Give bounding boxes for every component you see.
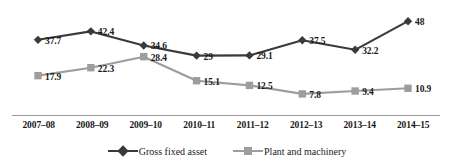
data-point-square[interactable] — [299, 90, 306, 97]
data-value-label: 28.4 — [151, 53, 167, 63]
x-tick-label: 2009–10 — [119, 120, 173, 138]
legend-label: Gross fixed asset — [139, 146, 207, 157]
data-point-square[interactable] — [193, 77, 200, 84]
data-point-diamond[interactable] — [351, 46, 359, 54]
data-point-square[interactable] — [87, 64, 94, 71]
data-value-label: 17.9 — [45, 72, 61, 82]
data-value-label: 7.8 — [309, 90, 321, 100]
data-point-square[interactable] — [34, 72, 41, 79]
data-value-label: 9.4 — [362, 87, 374, 97]
data-point-diamond[interactable] — [140, 41, 148, 49]
data-point-diamond[interactable] — [298, 36, 306, 44]
legend-item-gross-fixed-asset[interactable]: Gross fixed asset — [108, 145, 207, 157]
data-value-label: 29 — [204, 52, 213, 62]
data-point-diamond[interactable] — [192, 51, 200, 59]
data-point-square[interactable] — [404, 85, 411, 92]
x-axis-line — [12, 115, 440, 116]
legend-label: Plant and machinery — [264, 146, 346, 157]
x-tick-label: 2007–08 — [12, 120, 66, 138]
data-value-label: 42.4 — [98, 27, 114, 37]
data-value-label: 15.1 — [204, 77, 220, 87]
data-value-label: 34.6 — [151, 41, 167, 51]
x-axis-tick-labels: 2007–08 2008–09 2009–10 2010–11 2011–12 … — [12, 120, 440, 138]
data-value-label: 37.7 — [45, 36, 61, 46]
data-point-diamond[interactable] — [245, 51, 253, 59]
data-value-label: 48 — [415, 17, 424, 27]
x-tick-label: 2012–13 — [280, 120, 334, 138]
data-value-label: 12.5 — [256, 81, 272, 91]
x-tick-label: 2010–11 — [173, 120, 227, 138]
data-value-label: 32.2 — [362, 46, 378, 56]
data-point-diamond[interactable] — [34, 36, 42, 44]
data-point-diamond[interactable] — [404, 17, 412, 25]
chart-legend: Gross fixed asset Plant and machinery — [0, 145, 454, 157]
data-value-label: 37.5 — [309, 36, 325, 46]
legend-diamond-marker-icon — [108, 145, 138, 157]
x-tick-label: 2008–09 — [66, 120, 120, 138]
line-chart: 2007–08 2008–09 2009–10 2010–11 2011–12 … — [0, 0, 454, 168]
x-tick-label: 2011–12 — [226, 120, 280, 138]
data-value-label: 29.1 — [256, 51, 272, 61]
x-tick-label: 2014–15 — [387, 120, 441, 138]
data-point-square[interactable] — [140, 53, 147, 60]
data-point-square[interactable] — [246, 82, 253, 89]
legend-item-plant-and-machinery[interactable]: Plant and machinery — [233, 145, 346, 157]
data-point-diamond[interactable] — [87, 27, 95, 35]
x-tick-label: 2013–14 — [333, 120, 387, 138]
legend-square-marker-icon — [233, 145, 263, 157]
data-value-label: 10.9 — [415, 84, 431, 94]
plot-area — [0, 0, 454, 168]
data-point-square[interactable] — [351, 87, 358, 94]
data-value-label: 22.3 — [98, 64, 114, 74]
